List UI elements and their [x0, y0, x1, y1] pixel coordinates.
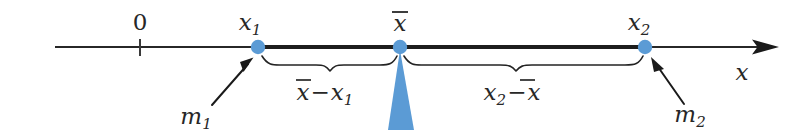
m1-leader	[212, 58, 254, 106]
left-distance-trail: x	[331, 79, 344, 105]
svg-text:x−x1: x−x1	[297, 79, 354, 109]
left-distance-lead: x	[297, 79, 310, 105]
origin-label: 0	[133, 9, 148, 35]
svg-text:x1: x1	[239, 9, 262, 39]
right-distance-lead: x	[484, 79, 497, 105]
right-distance-label: x2−x	[484, 79, 541, 109]
mass-label-m2-base: m	[674, 101, 696, 127]
svg-text:x2−x: x2−x	[484, 79, 541, 109]
figure-canvas: 0 x x−x1 x2−x x1	[0, 0, 795, 139]
point-label-x1: x1	[239, 9, 262, 39]
axis-variable-label: x	[736, 59, 749, 85]
m2-leader	[651, 57, 684, 104]
mass-label-m1-base: m	[180, 103, 202, 129]
mass-label-m2-subscript: 2	[695, 113, 706, 131]
right-brace	[404, 56, 643, 71]
right-distance-trail: x	[527, 79, 540, 105]
point-label-x1-base: x	[239, 9, 252, 35]
m1-leader-line	[212, 64, 248, 105]
point-label-x2-base: x	[628, 9, 641, 35]
mass-label-m1: m1	[180, 103, 211, 133]
m2-arrowhead-icon	[651, 57, 664, 72]
balance-point-figure: 0 x x−x1 x2−x x1	[0, 0, 795, 139]
right-distance-operator: −	[507, 79, 526, 105]
right-distance-lead-subscript: 2	[496, 91, 507, 109]
left-distance-trail-subscript: 1	[344, 91, 354, 109]
left-distance-label: x−x1	[296, 79, 353, 109]
point-label-xbar: x	[392, 10, 408, 36]
point-label-x2-subscript: 2	[640, 21, 651, 39]
svg-text:x2: x2	[628, 9, 651, 39]
left-brace	[262, 56, 397, 71]
point-marker-xbar	[393, 40, 407, 54]
mass-label-m2: m2	[674, 101, 705, 131]
mass-label-m1-subscript: 1	[202, 115, 212, 133]
svg-text:m2: m2	[674, 101, 705, 131]
left-distance-operator: −	[311, 79, 330, 105]
svg-text:m1: m1	[180, 103, 211, 133]
point-marker-x1	[251, 40, 265, 54]
point-label-x2: x2	[628, 9, 651, 39]
point-label-xbar-base: x	[394, 10, 407, 36]
point-label-x1-subscript: 1	[252, 21, 262, 39]
point-marker-x2	[638, 40, 652, 54]
